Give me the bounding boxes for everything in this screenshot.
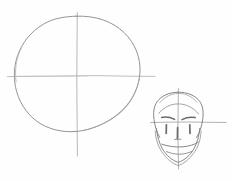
figure-constructed-head	[151, 89, 227, 170]
head-mouth-line	[162, 142, 198, 147]
sphere-vertical-center-line	[77, 13, 78, 157]
head-chin-line	[166, 151, 192, 154]
head-left-eyebrow	[162, 117, 175, 119]
figure-construction-sphere	[8, 13, 156, 157]
head-right-eyebrow	[182, 117, 195, 119]
sketch-page	[0, 0, 232, 181]
head-horizontal-eye-line	[151, 122, 227, 123]
pencil-sketch-canvas	[0, 0, 232, 181]
sphere-outline-overdraw	[84, 78, 140, 131]
